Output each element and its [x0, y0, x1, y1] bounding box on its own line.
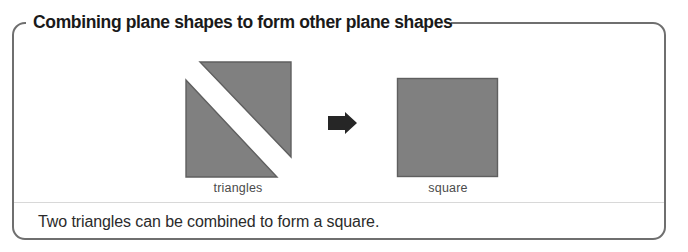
page-title: Combining plane shapes to form other pla… — [33, 10, 452, 34]
triangles-figure — [186, 62, 291, 177]
square-shape — [398, 79, 498, 177]
caption-text: Two triangles can be combined to form a … — [38, 211, 379, 233]
square-figure — [398, 79, 498, 177]
arrow-right-icon — [328, 112, 357, 134]
caption-divider — [14, 202, 664, 203]
